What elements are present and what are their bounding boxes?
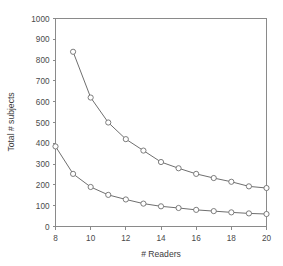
y-axis-ticks: 01002003004005006007008009001000 [31,15,55,232]
y-tick-label: 100 [36,202,50,211]
x-tick-label: 8 [53,234,58,243]
x-tick-label: 12 [121,234,131,243]
x-tick-label: 18 [227,234,237,243]
data-point-marker [211,175,216,180]
data-point-marker [123,137,128,142]
data-point-marker [106,192,111,197]
y-tick-label: 400 [36,139,50,148]
x-axis-ticks: 8101214161820 [53,227,271,243]
data-point-marker [264,211,269,216]
data-point-marker [106,120,111,125]
x-axis-title: # Readers [141,249,181,259]
series-upper-curve [70,49,269,190]
data-point-marker [194,207,199,212]
data-point-marker [246,184,251,189]
y-tick-label: 600 [36,98,50,107]
data-point-marker [158,159,163,164]
data-point-marker [70,49,75,54]
data-point-marker [176,166,181,171]
y-tick-label: 1000 [31,15,50,24]
y-tick-label: 300 [36,160,50,169]
data-point-marker [229,210,234,215]
x-tick-label: 14 [156,234,166,243]
y-tick-label: 0 [45,223,50,232]
data-point-marker [88,184,93,189]
y-tick-label: 800 [36,56,50,65]
data-point-marker [53,144,58,149]
x-tick-label: 20 [262,234,272,243]
y-tick-label: 900 [36,35,50,44]
data-point-marker [88,95,93,100]
y-tick-label: 500 [36,119,50,128]
series-path [73,52,266,188]
y-tick-label: 200 [36,181,50,190]
data-point-marker [123,197,128,202]
data-point-marker [176,205,181,210]
data-point-marker [70,171,75,176]
data-point-marker [264,185,269,190]
y-axis-title: Total # subjects [6,92,16,151]
data-point-marker [141,201,146,206]
data-point-marker [246,211,251,216]
data-series-layer [53,49,269,216]
plot-frame [56,19,267,227]
line-chart: 01002003004005006007008009001000 8101214… [0,0,283,266]
x-tick-label: 10 [86,234,96,243]
data-point-marker [211,209,216,214]
data-point-marker [158,204,163,209]
y-tick-label: 700 [36,77,50,86]
chart-figure: 01002003004005006007008009001000 8101214… [0,0,283,266]
x-tick-label: 16 [192,234,202,243]
data-point-marker [141,148,146,153]
data-point-marker [194,171,199,176]
data-point-marker [229,179,234,184]
series-lower-curve [53,144,269,217]
